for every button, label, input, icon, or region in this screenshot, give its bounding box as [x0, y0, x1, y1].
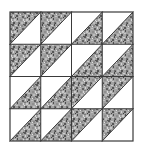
quilt-block-figure: Quilt Block Diagram Four-by-four grid of…: [0, 0, 143, 150]
block-body: [10, 12, 133, 141]
quilt-block-canvas: [0, 0, 143, 150]
